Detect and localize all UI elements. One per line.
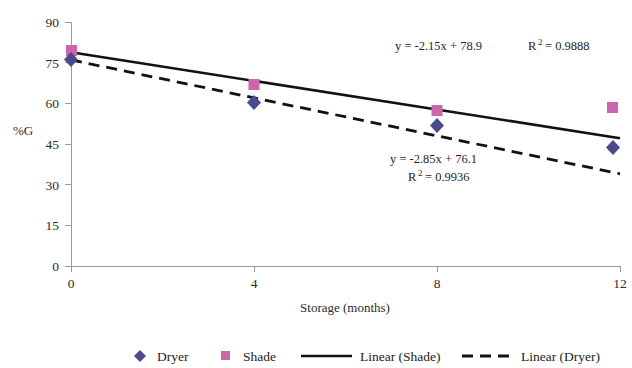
- annotation-shade-r-exponent: 2: [538, 37, 543, 47]
- annotation-dryer-r-label: R: [408, 170, 417, 184]
- trendline-shade: [71, 52, 620, 138]
- y-tick-label-30: 30: [46, 178, 60, 193]
- line-chart-svg: 90 75 60 45 30 15 0 0 4 8 12 %G Storage …: [0, 0, 632, 368]
- legend-marker-shade-icon: [221, 351, 230, 360]
- chart-container: 90 75 60 45 30 15 0 0 4 8 12 %G Storage …: [0, 0, 632, 368]
- data-point-shade-8: [432, 105, 443, 116]
- legend-label-shade: Shade: [243, 349, 276, 364]
- annotation-shade-equation: y = -2.15x + 78.9: [395, 39, 482, 53]
- annotation-dryer-equation: y = -2.85x + 76.1: [390, 152, 477, 166]
- data-point-dryer-8: [430, 118, 444, 133]
- legend-marker-dryer-icon: [134, 350, 146, 362]
- y-tick-label-15: 15: [46, 218, 60, 233]
- legend-label-dryer: Dryer: [157, 349, 189, 364]
- x-axis-title: Storage (months): [300, 300, 390, 315]
- annotation-dryer-r-exponent: 2: [418, 168, 423, 178]
- y-axis-title: %G: [13, 123, 33, 138]
- data-point-shade-12: [607, 102, 618, 113]
- y-tick-label-45: 45: [46, 137, 60, 152]
- chart-legend: Dryer Shade Linear (Shade) Linear (Dryer…: [134, 349, 600, 364]
- y-tick-label-75: 75: [46, 56, 60, 71]
- x-tick-label-8: 8: [434, 276, 441, 291]
- x-tick-label-12: 12: [613, 276, 627, 291]
- x-tick-label-0: 0: [68, 276, 75, 291]
- data-point-shade-4: [249, 79, 260, 90]
- annotation-shade-r-label: R: [528, 39, 537, 53]
- legend-label-linear-dryer: Linear (Dryer): [521, 349, 600, 364]
- trendline-dryer: [71, 60, 620, 174]
- y-tick-label-90: 90: [46, 15, 60, 30]
- y-tick-label-0: 0: [52, 259, 59, 274]
- annotation-dryer-r-value: = 0.9936: [425, 170, 470, 184]
- x-tick-label-4: 4: [251, 276, 258, 291]
- annotation-shade-r-value: = 0.9888: [545, 39, 590, 53]
- data-point-dryer-12: [606, 140, 620, 155]
- legend-label-linear-shade: Linear (Shade): [360, 349, 441, 364]
- y-tick-label-60: 60: [46, 96, 60, 111]
